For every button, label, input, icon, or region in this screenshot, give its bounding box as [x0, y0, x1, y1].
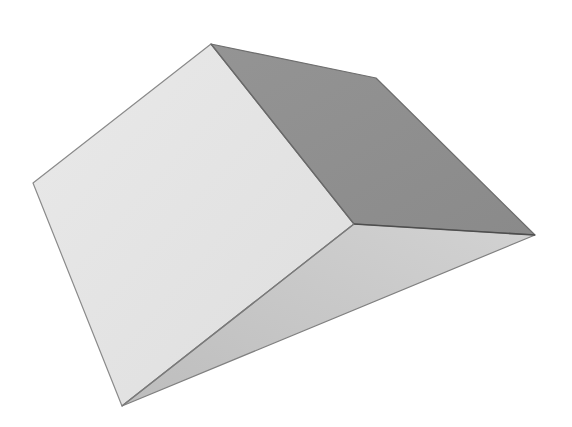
wedge-diagram: [0, 0, 572, 427]
figure-canvas: [0, 0, 572, 427]
